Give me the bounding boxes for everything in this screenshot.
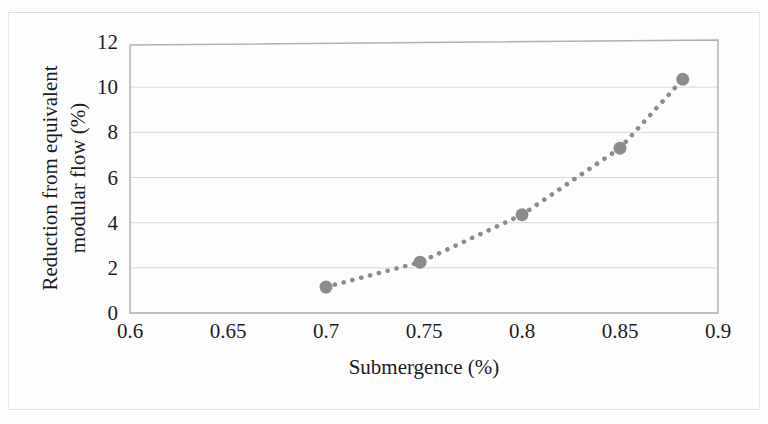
y-tick-label: 12 (97, 30, 118, 54)
chart-canvas: 0.60.650.70.750.80.850.9 024681012 Subme… (0, 0, 768, 424)
series-markers-group (320, 73, 690, 294)
x-tick-label: 0.8 (509, 319, 535, 343)
x-axis-title: Submergence (%) (349, 355, 500, 379)
y-tick-label: 4 (108, 211, 119, 235)
y-axis-title-line2: modular flow (%) (66, 103, 90, 253)
plot-border (130, 40, 718, 313)
y-tick-label: 6 (108, 166, 119, 190)
y-tick-labels: 024681012 (97, 30, 119, 325)
y-tick-label: 10 (97, 75, 118, 99)
x-tick-labels: 0.60.650.70.750.80.850.9 (117, 319, 731, 343)
x-tick-label: 0.75 (406, 319, 443, 343)
gridlines-group (130, 87, 718, 313)
x-tick-label: 0.9 (705, 319, 731, 343)
data-point-marker (676, 73, 689, 86)
y-axis-title-line1: Reduction from equivalent (38, 65, 62, 290)
x-tick-label: 0.85 (602, 319, 639, 343)
plot-frame (130, 40, 718, 313)
x-tick-label: 0.6 (117, 319, 143, 343)
series-dotted-line (326, 79, 683, 287)
y-tick-label: 2 (108, 256, 119, 280)
figure-container: 0.60.650.70.750.80.850.9 024681012 Subme… (0, 0, 768, 424)
data-point-marker (320, 281, 333, 294)
trend-dotted-line (326, 79, 683, 287)
x-tick-label: 0.7 (313, 319, 339, 343)
y-tick-label: 0 (108, 301, 119, 325)
data-point-marker (614, 142, 627, 155)
data-point-marker (414, 256, 427, 269)
data-point-marker (516, 208, 529, 221)
x-tick-label: 0.65 (210, 319, 247, 343)
y-tick-label: 8 (108, 120, 119, 144)
